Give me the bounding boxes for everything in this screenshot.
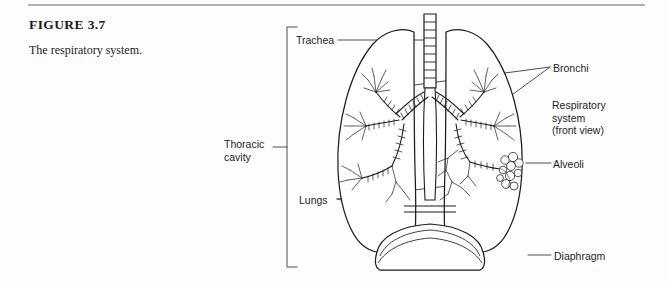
label-lungs: Lungs: [299, 194, 328, 207]
left-lung: [338, 30, 416, 252]
label-alveoli: Alveoli: [553, 158, 584, 171]
label-trachea: Trachea: [296, 34, 334, 47]
trachea: [424, 14, 437, 200]
figure-page: FIGURE 3.7 The respiratory system.: [0, 0, 669, 281]
thoracic-cavity-bracket: [273, 27, 297, 267]
respiratory-system-illustration: [0, 0, 669, 281]
label-respiratory-system: Respiratory system (front view): [552, 99, 606, 137]
label-bronchi: Bronchi: [553, 62, 589, 75]
label-thoracic-cavity: Thoracic cavity: [224, 138, 264, 163]
right-lung: [444, 30, 522, 252]
mediastinum: [424, 88, 437, 200]
label-diaphragm: Diaphragm: [554, 250, 605, 263]
